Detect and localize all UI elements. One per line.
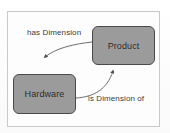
node-hardware-label: Hardware [25,89,65,99]
diagram-screenshot: Product Hardware has Dimension is Dimens… [0,0,170,133]
edge-label-is-dimension-of: is Dimension of [88,94,144,103]
node-hardware[interactable]: Hardware [13,74,76,114]
node-product-label: Product [108,41,140,51]
edge-label-has-dimension: has Dimension [27,28,81,37]
node-product[interactable]: Product [92,26,155,65]
